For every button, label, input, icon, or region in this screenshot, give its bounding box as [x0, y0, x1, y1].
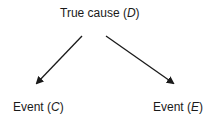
node-e-prefix: Event (	[153, 100, 191, 114]
node-e-variable: E	[191, 100, 199, 114]
node-e-suffix: )	[199, 100, 203, 114]
arrow-d-to-c	[37, 36, 82, 83]
node-c-prefix: Event (	[13, 100, 51, 114]
node-event-c: Event (C)	[13, 100, 64, 114]
node-c-variable: C	[51, 100, 60, 114]
node-c-suffix: )	[60, 100, 64, 114]
node-event-e: Event (E)	[153, 100, 203, 114]
arrow-d-to-e	[106, 36, 173, 83]
